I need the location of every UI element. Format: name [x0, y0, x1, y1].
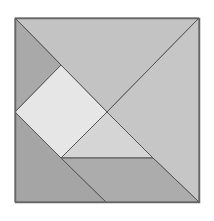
tangram-pieces [15, 18, 199, 202]
tangram-svg [0, 0, 214, 221]
tangram-diagram [0, 0, 214, 221]
